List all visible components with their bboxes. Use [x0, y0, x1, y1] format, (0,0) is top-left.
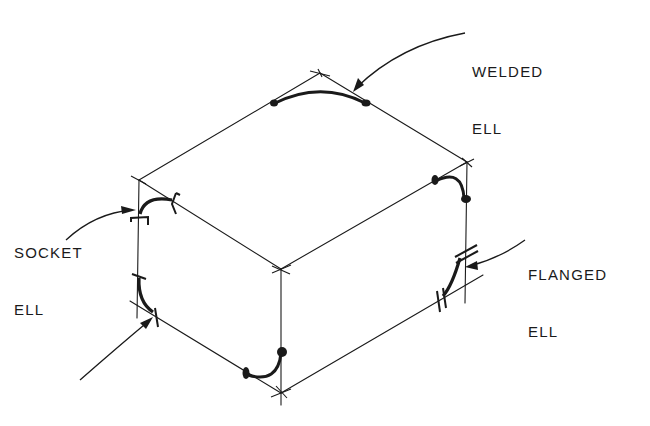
socket-ell-label: SOCKET ELL: [14, 205, 83, 338]
threaded-ell-icon: [132, 274, 158, 327]
edge-top-right: [320, 73, 467, 162]
welded-ell-bottom-icon: [243, 347, 288, 379]
welded-ell-label-line1: WELDED: [472, 62, 543, 81]
welded-ell-right-icon: [432, 175, 472, 203]
flanged-ell-icon: [437, 245, 478, 312]
socket-ell-label-line1: SOCKET: [14, 243, 83, 262]
box-edges: [130, 73, 483, 405]
threaded-leader-arrow: [80, 320, 150, 380]
isometric-piping-diagram: [0, 0, 650, 426]
flanged-ell-label-line2: ELL: [528, 322, 607, 341]
socket-ell-label-line2: ELL: [14, 300, 83, 319]
threaded-ell-label-line1: THREADED: [18, 422, 110, 426]
welded-ell-label-line2: ELL: [472, 119, 543, 138]
flanged-ell-label-line1: FLANGED: [528, 265, 607, 284]
welded-ell-label: WELDED ELL: [472, 24, 543, 157]
threaded-ell-label: THREADED ELL: [18, 384, 110, 426]
flanged-ell-label: FLANGED ELL: [528, 227, 607, 360]
edge-left-front: [139, 180, 281, 269]
edge-top-left: [139, 73, 320, 180]
vertex-ticks: [131, 69, 474, 398]
edge-bottom-left: [130, 301, 281, 393]
welded-leader-arrow: [356, 33, 465, 88]
flanged-leader-arrow: [470, 240, 525, 266]
edge-bottom-right: [281, 275, 483, 393]
edge-right-vertical: [465, 162, 467, 303]
edge-left-vertical: [137, 180, 139, 318]
leader-arrows: [66, 33, 525, 380]
